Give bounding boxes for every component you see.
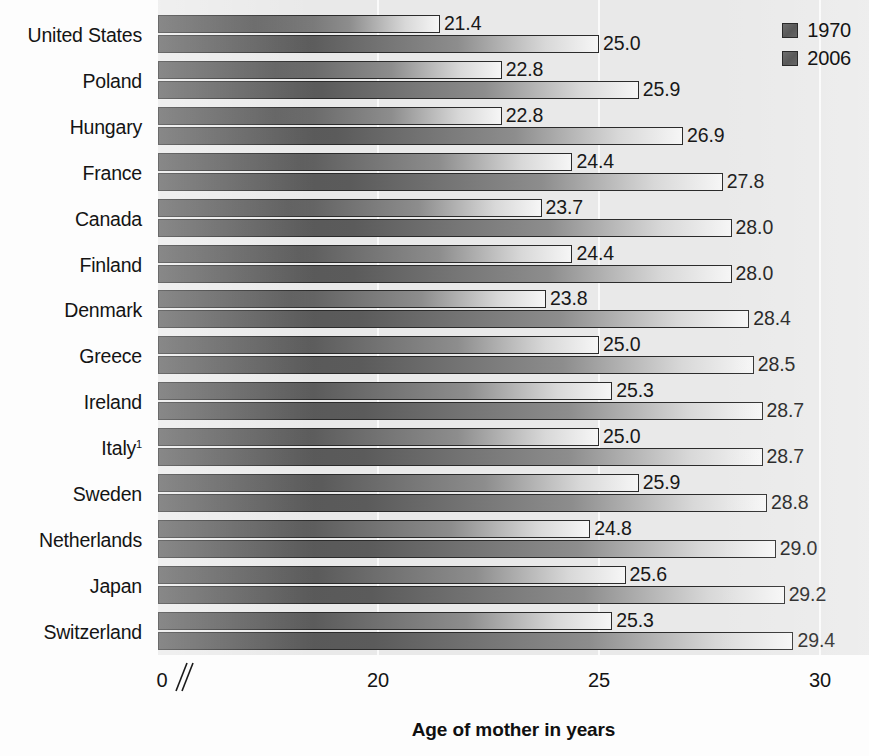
bar-value-label: 28.4 [753, 307, 791, 330]
value-axis: 0202530 Age of mother in years [0, 655, 869, 756]
category-label-switzerland: Switzerland [0, 621, 142, 644]
category-label-japan: Japan [0, 575, 142, 598]
bar-group-row: 29.4 [158, 632, 869, 650]
axis-break-icon [170, 660, 196, 694]
bar-2006[interactable] [158, 402, 763, 420]
bar-value-label: 24.4 [576, 242, 614, 265]
bar-value-label: 25.3 [616, 609, 654, 632]
axis-tick-20: 20 [367, 669, 389, 692]
bar-group-row: 25.9 [158, 474, 869, 492]
bar-1970[interactable] [158, 612, 612, 630]
bar-group-row: 25.6 [158, 566, 869, 584]
bar-group-row: 24.4 [158, 245, 869, 263]
bar-group-row: 26.9 [158, 127, 869, 145]
bar-value-label: 25.9 [643, 471, 681, 494]
legend-swatch-icon [782, 23, 798, 38]
bar-group-row: 24.4 [158, 153, 869, 171]
category-axis-labels: United StatesPolandHungaryFranceCanadaFi… [0, 0, 150, 655]
category-label-ireland: Ireland [0, 391, 142, 414]
bar-value-label: 22.8 [506, 104, 544, 127]
axis-tick-30: 30 [809, 669, 831, 692]
bar-group-row: 28.7 [158, 448, 869, 466]
bar-value-label: 25.9 [643, 78, 681, 101]
legend-label: 2006 [807, 47, 851, 70]
bar-1970[interactable] [158, 290, 546, 308]
bar-value-label: 28.7 [767, 399, 805, 422]
axis-tick-25: 25 [588, 669, 610, 692]
bar-value-label: 23.7 [546, 196, 584, 219]
bar-group-row: 22.8 [158, 107, 869, 125]
bar-group-row: 25.3 [158, 382, 869, 400]
category-label-finland: Finland [0, 254, 142, 277]
bar-group-row: 28.7 [158, 402, 869, 420]
axis-tick-0: 0 [156, 669, 167, 692]
bar-2006[interactable] [158, 356, 754, 374]
category-label-poland: Poland [0, 70, 142, 93]
bar-group-row: 29.0 [158, 540, 869, 558]
bar-2006[interactable] [158, 448, 763, 466]
bar-value-label: 28.0 [736, 216, 774, 239]
bar-2006[interactable] [158, 173, 723, 191]
bar-2006[interactable] [158, 81, 639, 99]
bar-group-row: 28.0 [158, 219, 869, 237]
bar-group-row: 25.0 [158, 35, 869, 53]
bar-1970[interactable] [158, 61, 502, 79]
bar-2006[interactable] [158, 265, 732, 283]
bar-group-row: 27.8 [158, 173, 869, 191]
bar-1970[interactable] [158, 474, 639, 492]
bar-group-row: 28.4 [158, 310, 869, 328]
bar-1970[interactable] [158, 428, 599, 446]
bar-1970[interactable] [158, 520, 590, 538]
bar-value-label: 25.0 [603, 425, 641, 448]
bar-2006[interactable] [158, 35, 599, 53]
bar-2006[interactable] [158, 586, 785, 604]
legend-item-2006[interactable]: 2006 [782, 44, 851, 72]
category-label-italy: Italy1 [0, 437, 142, 460]
bar-group-row: 25.0 [158, 428, 869, 446]
bar-2006[interactable] [158, 310, 749, 328]
category-label-denmark: Denmark [0, 299, 142, 322]
bar-group-row: 23.7 [158, 199, 869, 217]
bar-group-row: 25.9 [158, 81, 869, 99]
bar-group-row: 23.8 [158, 290, 869, 308]
bar-value-label: 28.7 [767, 445, 805, 468]
bar-value-label: 28.8 [771, 491, 809, 514]
bar-value-label: 28.0 [736, 262, 774, 285]
bar-2006[interactable] [158, 540, 776, 558]
bar-value-label: 25.6 [630, 563, 668, 586]
chart-page: 21.425.022.825.922.826.924.427.823.728.0… [0, 0, 869, 756]
bar-1970[interactable] [158, 336, 599, 354]
bar-2006[interactable] [158, 219, 732, 237]
bar-1970[interactable] [158, 245, 572, 263]
legend: 1970 2006 [782, 16, 851, 72]
bar-2006[interactable] [158, 632, 793, 650]
bar-1970[interactable] [158, 199, 542, 217]
bar-1970[interactable] [158, 382, 612, 400]
legend-item-1970[interactable]: 1970 [782, 16, 851, 44]
category-label-united-states: United States [0, 24, 142, 47]
bar-1970[interactable] [158, 153, 572, 171]
legend-swatch-icon [782, 51, 798, 66]
bar-group-row: 25.0 [158, 336, 869, 354]
bar-value-label: 25.0 [603, 32, 641, 55]
bar-value-label: 29.2 [789, 583, 827, 606]
bar-value-label: 24.8 [594, 517, 632, 540]
bar-1970[interactable] [158, 566, 626, 584]
bar-group-row: 28.0 [158, 265, 869, 283]
bar-group-row: 22.8 [158, 61, 869, 79]
legend-label: 1970 [807, 19, 851, 42]
bar-group-row: 21.4 [158, 15, 869, 33]
bar-1970[interactable] [158, 107, 502, 125]
bar-group-row: 29.2 [158, 586, 869, 604]
category-label-canada: Canada [0, 208, 142, 231]
bar-1970[interactable] [158, 15, 440, 33]
bar-2006[interactable] [158, 494, 767, 512]
category-label-hungary: Hungary [0, 116, 142, 139]
bar-group-row: 24.8 [158, 520, 869, 538]
bar-value-label: 29.4 [797, 629, 835, 652]
bar-2006[interactable] [158, 127, 683, 145]
bar-value-label: 27.8 [727, 170, 765, 193]
plot-area: 21.425.022.825.922.826.924.427.823.728.0… [158, 0, 869, 655]
bar-group-row: 28.8 [158, 494, 869, 512]
category-label-france: France [0, 162, 142, 185]
